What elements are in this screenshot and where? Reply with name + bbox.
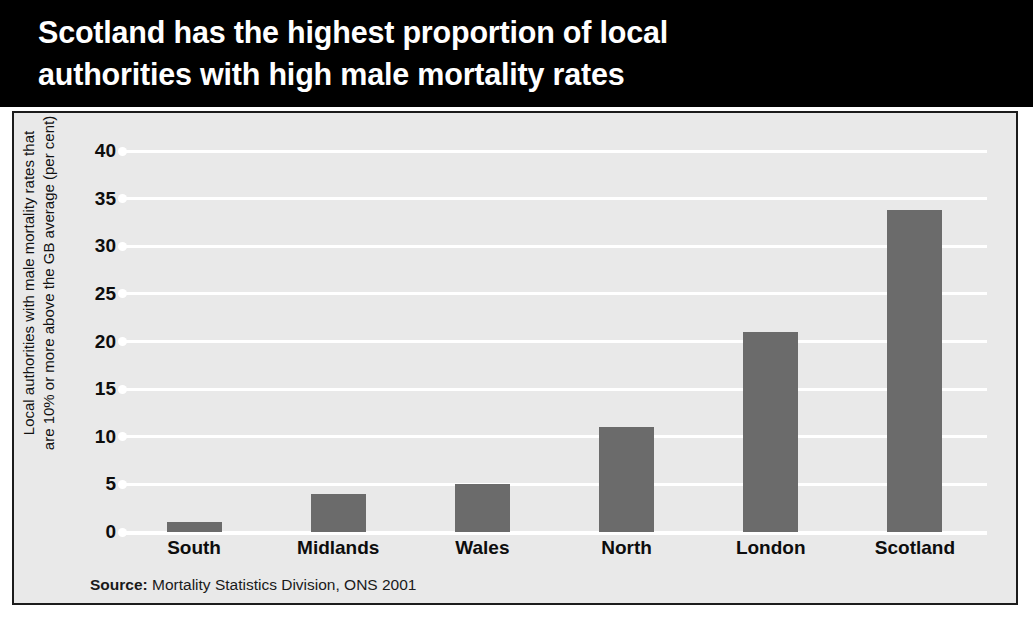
y-axis-title: Local authorities with male mortality ra… bbox=[19, 68, 59, 498]
gridline bbox=[122, 340, 987, 343]
gridline bbox=[122, 245, 987, 248]
x-axis-tick-labels: SouthMidlandsWalesNorthLondonScotland bbox=[122, 537, 987, 567]
bar bbox=[743, 332, 798, 532]
y-tick-label: 0 bbox=[72, 521, 116, 543]
gridline-dot-marker bbox=[118, 528, 127, 537]
gridline-dot-marker bbox=[118, 480, 127, 489]
bar bbox=[311, 494, 366, 532]
x-tick-label: Scotland bbox=[843, 537, 987, 559]
x-tick-label: South bbox=[122, 537, 266, 559]
y-tick-label: 10 bbox=[72, 426, 116, 448]
gridline-dot-marker bbox=[118, 289, 127, 298]
y-tick-label: 5 bbox=[72, 473, 116, 495]
y-tick-label: 15 bbox=[72, 378, 116, 400]
plot-area bbox=[122, 151, 987, 532]
bar bbox=[887, 210, 942, 532]
gridline-dot-marker bbox=[118, 194, 127, 203]
gridline-dot-marker bbox=[118, 147, 127, 156]
bar bbox=[455, 484, 510, 532]
gridline bbox=[122, 388, 987, 391]
gridline bbox=[122, 531, 987, 535]
gridline bbox=[122, 435, 987, 438]
source-note: Source: Mortality Statistics Division, O… bbox=[90, 576, 416, 594]
bar bbox=[599, 427, 654, 532]
source-label: Source: bbox=[90, 576, 148, 593]
y-tick-label: 20 bbox=[72, 331, 116, 353]
gridline-dot-marker bbox=[118, 337, 127, 346]
gridline bbox=[122, 292, 987, 295]
gridline bbox=[122, 150, 987, 153]
y-tick-label: 40 bbox=[72, 140, 116, 162]
title-band: Scotland has the highest proportion of l… bbox=[0, 0, 1033, 107]
gridline-dot-marker bbox=[118, 242, 127, 251]
chart-figure: Scotland has the highest proportion of l… bbox=[0, 0, 1033, 619]
x-tick-label: Midlands bbox=[266, 537, 410, 559]
gridline bbox=[122, 483, 987, 486]
y-axis-tick-labels: 0510152025303540 bbox=[66, 151, 116, 532]
y-tick-label: 25 bbox=[72, 283, 116, 305]
x-tick-label: Wales bbox=[410, 537, 554, 559]
x-tick-label: North bbox=[555, 537, 699, 559]
y-tick-label: 35 bbox=[72, 188, 116, 210]
chart-panel: Local authorities with male mortality ra… bbox=[12, 111, 1018, 605]
bar bbox=[167, 522, 222, 532]
gridline-dot-marker bbox=[118, 432, 127, 441]
source-text: Mortality Statistics Division, ONS 2001 bbox=[148, 576, 417, 593]
y-tick-label: 30 bbox=[72, 235, 116, 257]
chart-title: Scotland has the highest proportion of l… bbox=[38, 11, 938, 95]
gridline-dot-marker bbox=[118, 385, 127, 394]
x-tick-label: London bbox=[699, 537, 843, 559]
gridline bbox=[122, 197, 987, 200]
